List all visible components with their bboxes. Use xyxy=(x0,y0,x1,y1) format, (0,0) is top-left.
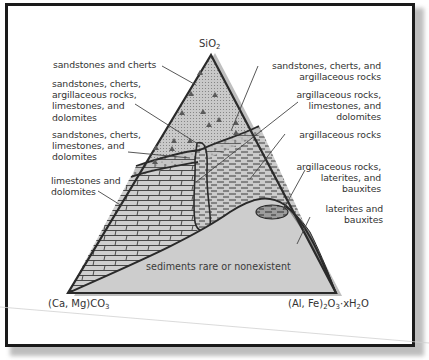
label-sandstones-cherts-argillaceous: sandstones, cherts, and argillaceous roc… xyxy=(259,60,381,82)
label-sandstones-cherts-limestones-dolomites: sandstones, cherts, limestones, and dolo… xyxy=(52,129,141,163)
stray-line xyxy=(0,307,429,343)
label-sediments-rare: sediments rare or nonexistent xyxy=(146,261,291,272)
vertex-top-label: SiO2 xyxy=(199,38,220,51)
label-argillaceous-laterites-bauxites: argillaceous rocks, laterites, and bauxi… xyxy=(259,161,381,195)
vertex-bottom-right-label: (Al, Fe)2O3·xH2O xyxy=(288,298,369,311)
label-sandstones-cherts: sandstones and cherts xyxy=(53,59,156,70)
label-argillaceous-limestones-dolomites: argillaceous rocks, limestones, and dolo… xyxy=(259,89,381,123)
vertex-bottom-left-label: (Ca, Mg)CO3 xyxy=(48,298,110,311)
label-laterites-bauxites: laterites and bauxites xyxy=(259,203,383,225)
label-sandstones-cherts-argillaceous-limestones-dolomites: sandstones, cherts, argillaceous rocks, … xyxy=(52,78,141,123)
label-argillaceous: argillaceous rocks xyxy=(259,129,381,140)
label-limestones-dolomites: limestones and dolomites xyxy=(51,175,121,197)
figure-stage: SiO2 (Ca, Mg)CO3 (Al, Fe)2O3·xH2O sandst… xyxy=(0,0,429,360)
